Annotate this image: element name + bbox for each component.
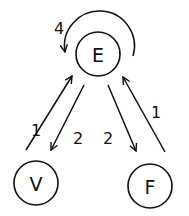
edge-v-to-e-label: 1: [31, 121, 41, 140]
edge-e-to-e-label: 4: [54, 19, 64, 38]
node-e: E: [76, 32, 120, 76]
node-e-label: E: [92, 44, 104, 66]
edge-f-to-e: 1: [123, 77, 165, 152]
node-f: F: [128, 164, 172, 208]
edge-e-to-v: 2: [51, 85, 84, 150]
edge-f-to-e-label: 1: [151, 103, 161, 122]
edge-v-to-e: 1: [26, 76, 72, 150]
edge-e-to-f-label: 2: [103, 129, 113, 148]
node-v: V: [14, 161, 58, 205]
graph-diagram: E V F 4 1 2 2 1: [0, 0, 189, 216]
node-f-label: F: [145, 176, 156, 198]
edge-e-to-f: 2: [103, 85, 136, 151]
node-v-label: V: [30, 173, 43, 195]
edge-e-to-v-label: 2: [73, 129, 83, 148]
